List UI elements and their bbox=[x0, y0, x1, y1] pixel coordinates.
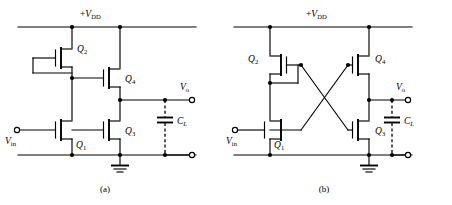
q3-label-a: Q3 bbox=[125, 126, 136, 137]
node-dot-cl-bottom-b bbox=[390, 153, 394, 157]
node-dot-cl-top-a bbox=[163, 98, 167, 102]
bottom-terminal-a[interactable] bbox=[189, 152, 194, 157]
node-dot-cl-top-b bbox=[390, 98, 394, 102]
caption-panel-a: (a) bbox=[100, 184, 110, 194]
vdd-label-a: +VDD bbox=[80, 9, 101, 20]
node-dot-q1-source-b bbox=[268, 153, 272, 157]
node-dot-q1-source-a bbox=[70, 153, 74, 157]
node-dot-cross-right-b bbox=[346, 63, 350, 67]
vo-terminal-b[interactable] bbox=[405, 97, 410, 102]
vdd-label-b: +VDD bbox=[306, 9, 327, 20]
figure-cmos-inverters: +VDD Vin Vo CL Q2 Q4 Q1 Q3 (a) bbox=[0, 0, 452, 205]
node-dot-gnd-b bbox=[367, 153, 371, 157]
q4-label-a: Q4 bbox=[125, 74, 136, 85]
bottom-terminal-b[interactable] bbox=[405, 152, 410, 157]
vo-label-a: Vo bbox=[180, 82, 190, 93]
node-dot-q2-source-a bbox=[70, 76, 74, 80]
q2-label-b: Q2 bbox=[248, 54, 258, 65]
node-dot-cross-left-b bbox=[299, 63, 303, 67]
q1-label-b: Q1 bbox=[274, 140, 284, 151]
q2-label-a: Q2 bbox=[77, 44, 87, 55]
node-dot-gnd-a bbox=[118, 153, 122, 157]
vin-label-b: Vin bbox=[226, 136, 238, 147]
node-dot-vdd-right-a bbox=[118, 25, 122, 29]
node-dot-cl-bottom-a bbox=[163, 153, 167, 157]
node-dot-vo-b bbox=[367, 98, 371, 102]
vin-label-a: Vin bbox=[5, 136, 17, 147]
q4-label-b: Q4 bbox=[375, 54, 386, 65]
circuit-panel-a: +VDD Vin Vo CL Q2 Q4 Q1 Q3 (a) bbox=[0, 0, 226, 205]
vo-label-b: Vo bbox=[396, 82, 406, 93]
circuit-panel-b: +VDD Vin Vo CL Q2 Q4 Q1 Q3 (b) bbox=[226, 0, 452, 205]
vin-terminal-a[interactable] bbox=[14, 127, 19, 132]
vo-terminal-a[interactable] bbox=[189, 97, 194, 102]
node-dot-vdd-left-b bbox=[268, 25, 272, 29]
cl-label-a: CL bbox=[177, 116, 187, 127]
node-dot-vdd-left-a bbox=[70, 25, 74, 29]
q3-label-b: Q3 bbox=[375, 126, 386, 137]
caption-panel-b: (b) bbox=[319, 184, 330, 194]
node-dot-q2-source-b bbox=[268, 81, 272, 85]
node-dot-vo-a bbox=[118, 98, 122, 102]
cl-label-b: CL bbox=[404, 116, 414, 127]
vin-terminal-b[interactable] bbox=[232, 127, 237, 132]
node-dot-vdd-right-b bbox=[367, 25, 371, 29]
q1-label-a: Q1 bbox=[76, 140, 86, 151]
